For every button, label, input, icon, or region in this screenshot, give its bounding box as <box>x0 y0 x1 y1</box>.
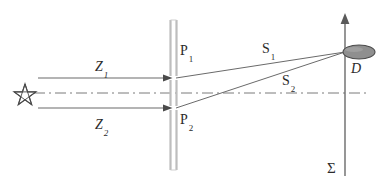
optics-figure: Z1 Z2 P1 P2 S1 S2 D Σ <box>0 0 385 186</box>
label-s1-base: S <box>262 41 270 56</box>
label-z1: Z1 <box>95 58 107 77</box>
diffracted-ray-s1 <box>176 52 345 78</box>
label-z2: Z2 <box>95 116 107 135</box>
diffracted-ray-s2 <box>176 52 345 108</box>
label-p2: P2 <box>180 111 192 130</box>
incident-beam-z2 <box>38 105 173 112</box>
label-z1-sub: 1 <box>104 70 109 80</box>
label-s1: S1 <box>262 40 274 59</box>
label-z2-base: Z <box>95 117 103 132</box>
label-p1-sub: 1 <box>189 54 194 64</box>
label-d: D <box>351 60 361 76</box>
star-source <box>14 84 36 105</box>
figure-canvas <box>0 0 385 186</box>
detector-d <box>343 45 375 59</box>
label-s2-base: S <box>282 73 290 88</box>
label-z2-sub: 2 <box>104 128 109 138</box>
label-s2-sub: 2 <box>291 84 296 94</box>
label-z1-base: Z <box>95 59 103 74</box>
label-s2: S2 <box>282 72 294 91</box>
label-p2-sub: 2 <box>189 123 194 133</box>
screen-axis-sigma <box>341 13 350 176</box>
label-p1: P1 <box>180 42 192 61</box>
label-sigma-base: Σ <box>327 160 336 176</box>
label-s1-sub: 1 <box>271 52 276 62</box>
aperture-plate <box>171 20 177 170</box>
label-p1-base: P <box>180 43 188 58</box>
sigma-axis-arrowhead <box>341 13 350 24</box>
label-d-base: D <box>351 61 361 76</box>
label-sigma: Σ <box>327 160 336 176</box>
label-p2-base: P <box>180 112 188 127</box>
